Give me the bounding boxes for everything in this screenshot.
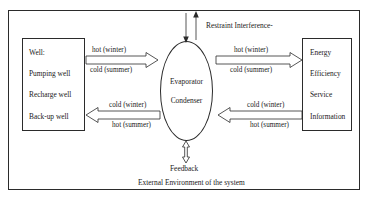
label-restraint-interference: Restraint Interference- (206, 22, 273, 29)
label-unit-to-outputs-below: cold (summer) (230, 67, 272, 74)
label-well-to-unit-above: hot (winter) (92, 47, 126, 54)
node-well: Well: Pumping well Recharge well Back-up… (22, 38, 85, 131)
node-center-line-2: Condenser (171, 97, 203, 104)
label-external-environment: External Environment of the system (138, 179, 245, 186)
node-well-item-1: Recharge well (29, 91, 84, 98)
label-feedback: Feedback (170, 165, 198, 172)
node-well-item-2: Back-up well (29, 113, 84, 120)
label-outputs-to-unit-above: cold (winter) (247, 102, 284, 109)
node-evaporator-condenser: Evaporator Condenser (160, 41, 213, 141)
label-unit-to-well-below: hot (summer) (112, 122, 151, 129)
label-unit-to-outputs-above: hot (winter) (234, 47, 268, 54)
node-outputs-item-3: Information (309, 113, 351, 120)
node-well-title: Well: (29, 49, 84, 56)
label-unit-to-well-above: cold (winter) (109, 102, 146, 109)
label-well-to-unit-below: cold (summer) (90, 67, 132, 74)
node-outputs-item-0: Energy (309, 49, 351, 56)
node-well-item-0: Pumping well (29, 70, 84, 77)
node-center-line-1: Evaporator (170, 78, 203, 85)
node-outputs-item-2: Service (309, 91, 351, 98)
diagram-canvas: Well: Pumping well Recharge well Back-up… (0, 0, 370, 202)
label-outputs-to-unit-below: hot (summer) (250, 122, 289, 129)
node-outputs-item-1: Efficiency (309, 70, 351, 77)
node-outputs: Energy Efficiency Service Information (302, 38, 352, 131)
